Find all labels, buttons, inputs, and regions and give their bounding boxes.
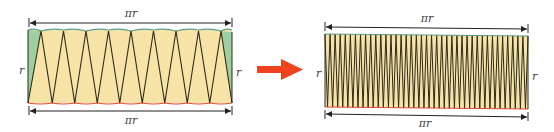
left-left-side-label: r	[19, 64, 25, 77]
transition-arrow-icon	[257, 59, 303, 80]
right-left-side-label: r	[316, 67, 322, 80]
right-bottom-dimension: πr	[325, 110, 528, 130]
left-right-side-label: r	[236, 66, 242, 79]
right-thin-sectors	[325, 34, 528, 109]
left-rearranged-sectors	[28, 29, 232, 104]
left-bottom-label: πr	[124, 114, 138, 127]
right-top-label: πr	[420, 12, 434, 25]
left-top-label: πr	[124, 7, 138, 20]
diagram-canvas: πr πr r r πr πr r r	[0, 0, 554, 132]
left-bottom-dimension: πr	[29, 106, 232, 127]
right-top-dimension: πr	[325, 12, 528, 33]
right-right-side-label: r	[532, 70, 538, 83]
left-sector-diagram: πr πr r r	[19, 7, 242, 127]
right-sector-diagram: πr πr r r	[316, 12, 538, 130]
right-bottom-label: πr	[418, 117, 432, 130]
left-top-dimension: πr	[29, 7, 232, 27]
